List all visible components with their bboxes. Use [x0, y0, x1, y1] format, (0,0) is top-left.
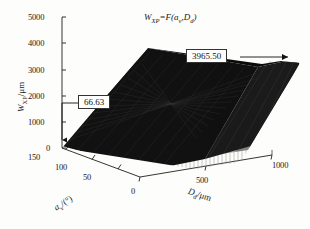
- x-tick-0: 0: [131, 186, 135, 196]
- annotation-min-box: 66.63: [78, 95, 110, 109]
- z-axis-label-main: W: [16, 105, 26, 113]
- z-tick-4000: 4000: [28, 38, 44, 48]
- z-axis-label: WXP/μm: [16, 82, 28, 112]
- title-close: ): [193, 12, 196, 22]
- y-tick-150: 150: [28, 152, 40, 162]
- chart-title: WXP=F(av,Dd): [144, 12, 196, 24]
- annotation-max-box: 3965.50: [186, 49, 227, 63]
- z-tick-0: 0: [46, 143, 50, 153]
- title-lhs-main: W: [144, 12, 152, 22]
- z-axis-label-unit: /μm: [16, 82, 26, 96]
- z-tick-1000: 1000: [28, 117, 44, 127]
- title-eq: =F(: [159, 12, 174, 22]
- z-axis-label-sub: XP: [21, 96, 28, 104]
- x-tick-500: 500: [196, 175, 208, 185]
- y-tick-100: 100: [55, 162, 67, 172]
- surface-plot-figure: [0, 0, 310, 229]
- y-tick-50: 50: [83, 172, 91, 182]
- z-tick-3000: 3000: [28, 65, 44, 75]
- z-tick-5000: 5000: [28, 12, 44, 22]
- x-tick-1000: 1000: [272, 160, 288, 170]
- z-tick-2000: 2000: [28, 91, 44, 101]
